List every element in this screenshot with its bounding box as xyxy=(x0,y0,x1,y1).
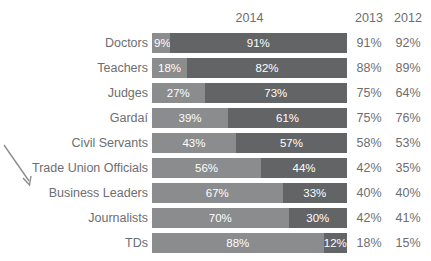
stacked-bar: 27%73% xyxy=(152,83,347,103)
row-label: Business Leaders xyxy=(0,183,148,203)
bar-segment-left-value: 88% xyxy=(226,237,249,249)
value-2013: 75% xyxy=(352,83,386,103)
bar-segment-left: 43% xyxy=(152,133,236,153)
value-2013: 91% xyxy=(352,33,386,53)
stacked-bar: 39%61% xyxy=(152,108,347,128)
bar-segment-right: 44% xyxy=(261,158,347,178)
bar-segment-left: 18% xyxy=(152,58,187,78)
value-2012: 89% xyxy=(391,58,425,78)
stacked-bar: 56%44% xyxy=(152,158,347,178)
header-year-2013: 2013 xyxy=(352,11,386,25)
bar-segment-right: 33% xyxy=(283,183,347,203)
stacked-bar: 88%12% xyxy=(152,233,347,253)
bar-segment-right-value: 57% xyxy=(280,137,303,149)
bar-segment-right-value: 33% xyxy=(303,187,326,199)
bar-segment-left-value: 70% xyxy=(209,212,232,224)
bar-segment-left-value: 39% xyxy=(179,112,202,124)
row-label: Judges xyxy=(0,83,148,103)
bar-segment-left: 56% xyxy=(152,158,261,178)
row-label: TDs xyxy=(0,233,148,253)
chart-row: Business Leaders67%33%40%40% xyxy=(0,183,431,203)
bar-segment-left-value: 67% xyxy=(206,187,229,199)
bar-segment-right-value: 73% xyxy=(264,87,287,99)
bar-segment-left-value: 18% xyxy=(158,62,181,74)
chart-title: TRUST IN PROFESSIONS xyxy=(0,0,431,3)
row-label: Journalists xyxy=(0,208,148,228)
value-2013: 75% xyxy=(352,108,386,128)
bar-segment-right: 73% xyxy=(205,83,347,103)
value-2012: 15% xyxy=(391,233,425,253)
stacked-bar: 43%57% xyxy=(152,133,347,153)
bar-segment-right-value: 30% xyxy=(306,212,329,224)
row-label: Doctors xyxy=(0,33,148,53)
bar-segment-right-value: 12% xyxy=(324,237,347,249)
value-2012: 41% xyxy=(391,208,425,228)
chart-row: Judges27%73%75%64% xyxy=(0,83,431,103)
bar-segment-right: 30% xyxy=(289,208,348,228)
bar-segment-left: 67% xyxy=(152,183,283,203)
bar-segment-right-value: 91% xyxy=(247,37,270,49)
stacked-bar: 67%33% xyxy=(152,183,347,203)
value-2012: 64% xyxy=(391,83,425,103)
bar-segment-left-value: 9% xyxy=(154,33,171,53)
chart-row: Teachers18%82%88%89% xyxy=(0,58,431,78)
value-2012: 92% xyxy=(391,33,425,53)
bar-segment-right-value: 44% xyxy=(293,162,316,174)
bar-segment-right: 61% xyxy=(228,108,347,128)
header-year-2014: 2014 xyxy=(152,11,347,25)
chart-row: Civil Servants43%57%58%53% xyxy=(0,133,431,153)
value-2013: 58% xyxy=(352,133,386,153)
bar-segment-right-value: 82% xyxy=(256,62,279,74)
column-header-row: 2014 2013 2012 xyxy=(0,11,431,29)
value-2013: 88% xyxy=(352,58,386,78)
value-2013: 42% xyxy=(352,158,386,178)
chart-row: Journalists70%30%42%41% xyxy=(0,208,431,228)
stacked-bar: 9%91% xyxy=(152,33,347,53)
bar-segment-left-value: 27% xyxy=(167,87,190,99)
value-2012: 35% xyxy=(391,158,425,178)
header-year-2012: 2012 xyxy=(391,11,425,25)
value-2013: 18% xyxy=(352,233,386,253)
value-2013: 42% xyxy=(352,208,386,228)
bar-segment-right-value: 61% xyxy=(276,112,299,124)
chart-row: TDs88%12%18%15% xyxy=(0,233,431,253)
chart-row: Doctors9%91%91%92% xyxy=(0,33,431,53)
bar-segment-right: 91% xyxy=(170,33,347,53)
row-label: Trade Union Officials xyxy=(0,158,148,178)
value-2012: 40% xyxy=(391,183,425,203)
bar-segment-left: 27% xyxy=(152,83,205,103)
stacked-bar: 18%82% xyxy=(152,58,347,78)
bar-segment-left: 70% xyxy=(152,208,289,228)
bar-segment-right: 12% xyxy=(324,233,347,253)
chart-rows: Doctors9%91%91%92%Teachers18%82%88%89%Ju… xyxy=(0,33,431,258)
bar-segment-left: 88% xyxy=(152,233,324,253)
bar-segment-right: 57% xyxy=(236,133,347,153)
stacked-bar: 70%30% xyxy=(152,208,347,228)
chart-row: Gardaí39%61%75%76% xyxy=(0,108,431,128)
row-label: Gardaí xyxy=(0,108,148,128)
bar-segment-left: 9% xyxy=(152,33,170,53)
bar-segment-right: 82% xyxy=(187,58,347,78)
chart-row: Trade Union Officials56%44%42%35% xyxy=(0,158,431,178)
bar-segment-left: 39% xyxy=(152,108,228,128)
value-2012: 53% xyxy=(391,133,425,153)
bar-segment-left-value: 43% xyxy=(182,137,205,149)
row-label: Teachers xyxy=(0,58,148,78)
stacked-bar-chart: TRUST IN PROFESSIONS 2014 2013 2012 Doct… xyxy=(0,0,431,261)
value-2012: 76% xyxy=(391,108,425,128)
value-2013: 40% xyxy=(352,183,386,203)
bar-segment-left-value: 56% xyxy=(195,162,218,174)
row-label: Civil Servants xyxy=(0,133,148,153)
